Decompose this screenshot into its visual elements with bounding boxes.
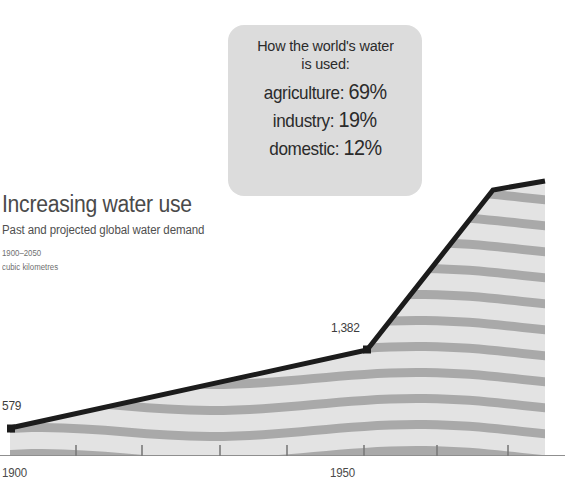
axis-tick-label-1950: 1950 [330, 466, 355, 480]
callout-label-domestic: domestic: [269, 138, 339, 159]
chart-title: Increasing water use [2, 192, 204, 216]
callout-heading: How the world's water is used: [257, 37, 394, 74]
marker-1950 [363, 346, 371, 354]
axis-tick-label-1900: 1900 [2, 466, 27, 480]
infographic-root: 579 1,382 1900 1950 Increasing water use… [0, 0, 565, 502]
title-block: Increasing water use Past and projected … [2, 192, 222, 273]
chart-units: cubic kilometres [2, 261, 204, 274]
callout-label-industry: industry: [273, 110, 334, 131]
callout-value-domestic: 12% [343, 135, 381, 160]
callout-row-agriculture: agriculture: 69% [264, 78, 387, 106]
water-usage-callout: How the world's water is used: agricultu… [228, 25, 422, 196]
callout-label-agriculture: agriculture: [264, 82, 344, 103]
marker-1900 [7, 425, 15, 433]
callout-row-industry: industry: 19% [273, 106, 377, 134]
chart-year-range: 1900–2050 [2, 247, 204, 260]
callout-value-agriculture: 69% [348, 79, 386, 104]
callout-value-industry: 19% [339, 107, 377, 132]
data-label-1900: 579 [2, 398, 21, 413]
callout-row-domestic: domestic: 12% [269, 134, 381, 162]
chart-subtitle: Past and projected global water demand [2, 224, 204, 238]
data-label-1950: 1,382 [331, 320, 360, 335]
